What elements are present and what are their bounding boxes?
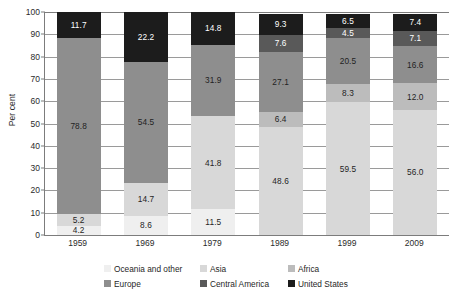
bar-segment[interactable]: 14.7 (124, 183, 168, 216)
bar-segment[interactable]: 54.5 (124, 62, 168, 184)
bar-segment[interactable]: 9.3 (259, 14, 303, 35)
bar-value-label: 8.3 (342, 89, 354, 97)
bar-value-label: 16.6 (407, 61, 424, 69)
bar-value-label: 12.0 (407, 93, 424, 101)
bar-value-label: 7.4 (409, 18, 421, 26)
bar-value-label: 14.8 (205, 24, 222, 32)
x-tick-label: 1979 (190, 238, 234, 248)
bar-value-label: 7.1 (409, 34, 421, 42)
legend-item[interactable]: Central America (200, 279, 288, 289)
bar-segment[interactable]: 20.5 (326, 38, 370, 84)
bar-value-label: 4.2 (73, 226, 85, 234)
bar-segment[interactable]: 12.0 (393, 83, 437, 110)
bar-segment[interactable]: 78.8 (57, 38, 101, 214)
bar-segment[interactable]: 7.1 (393, 31, 437, 47)
y-axis-title: Per cent (7, 80, 17, 140)
bar-segment[interactable]: 8.6 (124, 216, 168, 235)
bar-segment[interactable]: 6.5 (326, 14, 370, 28)
bar-segment[interactable]: 59.5 (326, 102, 370, 235)
bar-value-label: 22.2 (138, 33, 155, 41)
bar-column[interactable]: 8.614.754.522.2 (124, 12, 168, 235)
bar-segment[interactable]: 56.0 (393, 110, 437, 235)
x-tick-label: 1999 (325, 238, 369, 248)
y-tick-label: 90 (31, 29, 40, 39)
bar-value-label: 56.0 (407, 168, 424, 176)
bar-segment[interactable]: 11.5 (191, 209, 235, 235)
bar-value-label: 6.4 (275, 115, 287, 123)
bar-column[interactable]: 48.66.427.17.69.3 (259, 12, 303, 235)
bar-segment[interactable]: 27.1 (259, 52, 303, 112)
bar-segment[interactable]: 7.6 (259, 35, 303, 52)
bar-value-label: 6.5 (342, 17, 354, 25)
legend-label: Europe (114, 279, 141, 289)
legend-item[interactable]: Europe (104, 279, 200, 289)
bar-value-label: 11.5 (205, 218, 221, 226)
y-tick-label: 10 (31, 208, 40, 218)
legend-label: Africa (298, 264, 319, 274)
bar-value-label: 20.5 (340, 57, 357, 65)
legend-swatch-icon (104, 265, 111, 272)
bar-value-label: 54.5 (138, 118, 155, 126)
bar-column[interactable]: 11.541.831.914.8 (191, 12, 235, 235)
x-tick-label: 1959 (56, 238, 100, 248)
bar-value-label: 11.7 (71, 21, 87, 29)
bar-group: 4.25.278.811.78.614.754.522.211.541.831.… (45, 12, 449, 235)
y-tick-label: 80 (31, 52, 40, 62)
bar-value-label: 27.1 (272, 78, 289, 86)
legend-label: Asia (210, 264, 226, 274)
bar-column[interactable]: 4.25.278.811.7 (57, 12, 101, 235)
legend-swatch-icon (288, 265, 295, 272)
legend-swatch-icon (288, 280, 295, 287)
bar-column[interactable]: 59.58.320.54.56.5 (326, 12, 370, 235)
bar-segment[interactable]: 48.6 (259, 127, 303, 235)
legend-swatch-icon (200, 265, 207, 272)
y-tick-label: 100 (26, 7, 40, 17)
bar-segment[interactable]: 5.2 (57, 214, 101, 226)
chart-figure: Per cent 0102030405060708090100 4.25.278… (0, 0, 466, 300)
legend-label: Central America (210, 279, 269, 289)
bar-segment[interactable]: 7.4 (393, 14, 437, 31)
bar-segment[interactable]: 4.2 (57, 226, 101, 235)
legend-swatch-icon (200, 280, 207, 287)
bar-value-label: 4.5 (342, 29, 354, 37)
legend-item[interactable]: United States (288, 279, 362, 289)
chart-legend: Oceania and otherAsiaAfricaEuropeCentral… (104, 261, 362, 291)
bar-segment[interactable]: 31.9 (191, 45, 235, 116)
bar-segment[interactable]: 22.2 (124, 12, 168, 62)
bar-segment[interactable]: 8.3 (326, 84, 370, 103)
bar-value-label: 7.6 (275, 39, 287, 47)
bar-value-label: 9.3 (275, 20, 287, 28)
bar-value-label: 14.7 (138, 195, 155, 203)
bar-segment[interactable]: 14.8 (191, 12, 235, 45)
legend-item[interactable]: Oceania and other (104, 264, 200, 274)
x-tick-label: 2009 (392, 238, 436, 248)
y-tick-label: 70 (31, 74, 40, 84)
legend-item[interactable]: Africa (288, 264, 362, 274)
bar-value-label: 48.6 (272, 177, 289, 185)
bar-value-label: 59.5 (340, 165, 357, 173)
y-tick-label: 20 (31, 185, 40, 195)
plot-area: 0102030405060708090100 4.25.278.811.78.6… (44, 12, 449, 236)
y-tick-label: 50 (31, 119, 40, 129)
y-tick-label: 40 (31, 141, 40, 151)
x-tick-label: 1969 (123, 238, 167, 248)
bar-value-label: 78.8 (70, 122, 87, 130)
bar-value-label: 8.6 (140, 221, 152, 229)
bar-segment[interactable]: 16.6 (393, 46, 437, 83)
legend-swatch-icon (104, 280, 111, 287)
x-tick-label: 1989 (258, 238, 302, 248)
legend-item[interactable]: Asia (200, 264, 288, 274)
x-axis-ticks: 195919691979198919992009 (44, 238, 448, 248)
y-tick-label: 60 (31, 96, 40, 106)
legend-label: United States (298, 279, 348, 289)
y-tick-label: 0 (35, 230, 40, 240)
bar-column[interactable]: 56.012.016.67.17.4 (393, 12, 437, 235)
legend-label: Oceania and other (114, 264, 182, 274)
y-tick-label: 30 (31, 163, 40, 173)
bar-segment[interactable]: 4.5 (326, 28, 370, 38)
bar-value-label: 31.9 (205, 76, 222, 84)
bar-segment[interactable]: 11.7 (57, 12, 101, 38)
bar-segment[interactable]: 41.8 (191, 116, 235, 209)
bar-value-label: 5.2 (73, 216, 85, 224)
bar-segment[interactable]: 6.4 (259, 112, 303, 126)
